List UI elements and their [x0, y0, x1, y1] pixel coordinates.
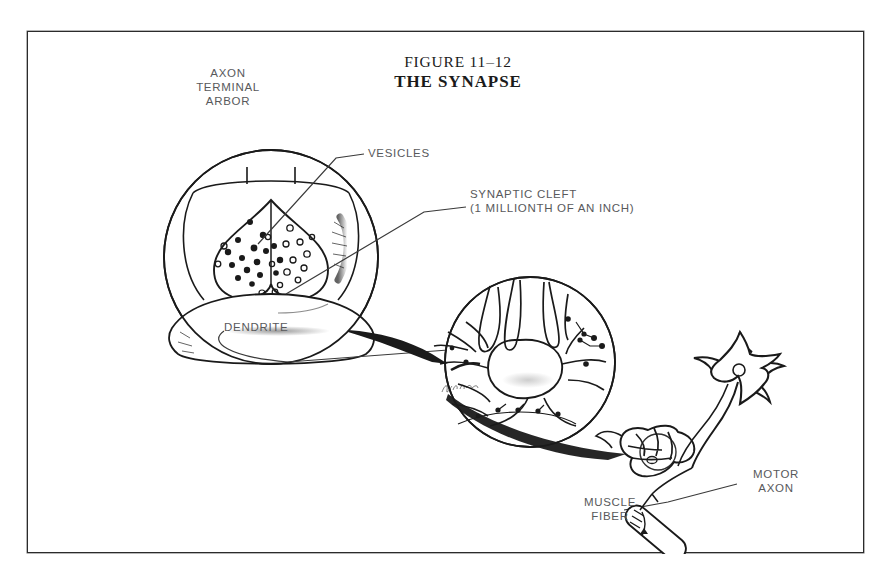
figure-title: FIGURE 11–12 THE SYNAPSE — [328, 52, 588, 92]
arbor-shading-right — [338, 217, 347, 280]
synapse-illustration — [28, 32, 865, 554]
label-dendrite: DENDRITE — [224, 320, 288, 334]
figure-page: FIGURE 11–12 THE SYNAPSE AXON TERMINAL A… — [0, 0, 892, 579]
label-synaptic-cleft: SYNAPTIC CLEFT (1 MILLIONTH OF AN INCH) — [470, 187, 634, 215]
closeup-inner-arc-top — [193, 181, 349, 193]
label-axon-terminal-arbor: AXON TERMINAL ARBOR — [173, 66, 283, 108]
label-muscle-fiber: MUSCLE FIBER — [570, 495, 650, 523]
figure-name: THE SYNAPSE — [328, 71, 588, 92]
label-motor-axon: MOTOR AXON — [741, 467, 811, 495]
figure-frame: FIGURE 11–12 THE SYNAPSE AXON TERMINAL A… — [27, 31, 864, 553]
neuron-axon — [692, 382, 738, 468]
neuron-soma — [711, 332, 780, 404]
neuron-axon-2 — [678, 384, 728, 466]
motor-axon-to-muscle — [652, 468, 692, 494]
micrograph-shading — [502, 372, 554, 388]
label-vesicles: VESICLES — [368, 146, 430, 160]
panel-lower-soma — [596, 426, 694, 477]
closeup-inner-arc-left — [183, 193, 204, 300]
figure-number: FIGURE 11–12 — [328, 52, 588, 71]
